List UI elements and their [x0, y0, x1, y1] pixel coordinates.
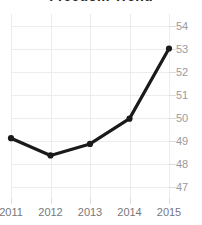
x-axis-tick-label: 2015 [157, 206, 181, 218]
x-axis-tick [130, 198, 131, 204]
data-series-freedom-trend [11, 14, 169, 198]
y-axis-tick [169, 118, 176, 119]
x-axis-tick [169, 198, 170, 204]
y-axis-tick [169, 164, 176, 165]
data-point [87, 141, 93, 147]
y-axis-tick-label: 52 [176, 66, 200, 78]
data-point [126, 116, 132, 122]
data-point [166, 45, 172, 51]
y-axis-tick-label: 50 [176, 112, 200, 124]
x-axis-tick [51, 198, 52, 204]
y-axis-tick [169, 72, 176, 73]
series-line [11, 49, 169, 156]
x-axis-tick-label: 2012 [38, 206, 62, 218]
y-axis-tick-label: 47 [176, 181, 200, 193]
data-point [8, 135, 14, 141]
data-point [47, 152, 53, 158]
x-axis-tick-label: 2011 [0, 206, 23, 218]
x-axis-tick [90, 198, 91, 204]
x-axis-tick-label: 2013 [78, 206, 102, 218]
plot-area [11, 14, 169, 198]
chart-title: Freedom Trend [0, 0, 202, 4]
gridline-vertical [169, 14, 170, 198]
x-axis-tick [11, 198, 12, 204]
y-axis-tick-label: 53 [176, 43, 200, 55]
y-axis-tick [169, 95, 176, 96]
y-axis-tick [169, 26, 176, 27]
x-axis-tick-label: 2014 [117, 206, 141, 218]
y-axis-tick-label: 48 [176, 158, 200, 170]
y-axis-tick-label: 49 [176, 135, 200, 147]
line-chart: Freedom Trend 5453525150494847 201120122… [0, 0, 202, 225]
y-axis-tick [169, 187, 176, 188]
y-axis-tick [169, 141, 176, 142]
series-markers [8, 45, 172, 158]
y-axis-tick-label: 54 [176, 20, 200, 32]
y-axis-tick-label: 51 [176, 89, 200, 101]
